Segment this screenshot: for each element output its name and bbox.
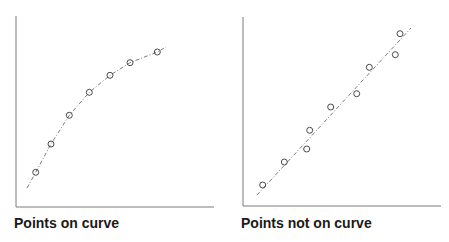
- data-point-marker: [260, 182, 266, 188]
- chart-panel-points-not-on-curve: Points not on curve: [225, 0, 449, 242]
- chart-title: Points not on curve: [241, 215, 372, 231]
- data-point-marker: [33, 169, 39, 175]
- data-point-marker: [281, 159, 287, 165]
- data-points: [260, 31, 403, 188]
- chart-title: Points on curve: [14, 215, 119, 231]
- plot-area-points-on-curve: [0, 0, 224, 212]
- data-point-marker: [307, 127, 313, 133]
- chart-panel-points-on-curve: Points on curve: [0, 0, 224, 242]
- data-point-marker: [328, 104, 334, 110]
- plot-area-points-not-on-curve: [225, 0, 449, 212]
- fit-curve: [27, 47, 166, 188]
- fit-line: [257, 28, 411, 195]
- data-point-marker: [366, 64, 372, 70]
- data-point-marker: [397, 31, 403, 37]
- data-point-marker: [154, 49, 160, 55]
- data-point-marker: [354, 91, 360, 97]
- data-points: [33, 49, 161, 175]
- data-point-marker: [48, 141, 54, 147]
- data-point-marker: [304, 146, 310, 152]
- data-point-marker: [392, 52, 398, 58]
